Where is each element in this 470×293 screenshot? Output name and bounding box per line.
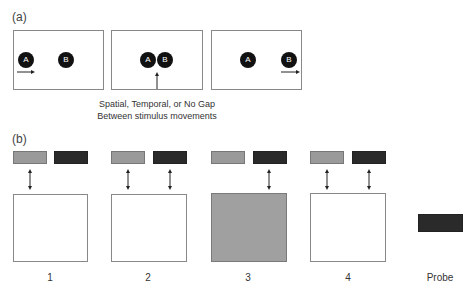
stimulus-b: B: [58, 52, 74, 68]
gray-bar: [211, 151, 245, 164]
dark-bar: [253, 151, 287, 164]
trial-number: 4: [338, 272, 358, 283]
trial-number: 3: [238, 272, 258, 283]
trial-number: 2: [138, 272, 158, 283]
stimulus-b: B: [157, 52, 173, 68]
trial-box-2: [111, 194, 187, 262]
trial-box-4: [310, 193, 386, 262]
gray-bar: [310, 151, 344, 164]
gap-caption: Spatial, Temporal, or No Gap Between sti…: [97, 98, 217, 122]
probe-bar: [418, 214, 463, 232]
gray-bar: [111, 151, 145, 164]
panel-b-label: (b): [12, 132, 27, 146]
dark-bar: [153, 151, 187, 164]
stimulus-a: A: [140, 52, 156, 68]
double-arrow-icon: [0, 0, 1, 1]
stimulus-a: A: [18, 52, 34, 68]
probe-label: Probe: [420, 272, 460, 283]
dark-bar: [352, 151, 386, 164]
trial-number: 1: [40, 272, 60, 283]
caption-line-1: Spatial, Temporal, or No Gap: [97, 98, 217, 110]
stimulus-b: B: [281, 52, 297, 68]
gray-bar: [13, 151, 47, 164]
caption-line-2: Between stimulus movements: [97, 110, 217, 122]
dark-bar: [54, 151, 88, 164]
panel-a-label: (a): [12, 10, 27, 24]
trial-box-1: [13, 194, 88, 262]
stimulus-a: A: [240, 52, 256, 68]
trial-box-3: [211, 193, 287, 262]
